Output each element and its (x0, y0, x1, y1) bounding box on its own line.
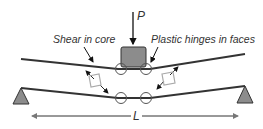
load-block (121, 47, 146, 67)
hinge-pointer-arrow (151, 47, 158, 62)
right-support-icon (237, 86, 253, 103)
plastic-hinges-label: Plastic hinges in faces (151, 33, 255, 45)
left-shear-element (86, 71, 108, 93)
span-label: L (131, 109, 142, 123)
shear-pointer-arrow (84, 47, 93, 62)
right-shear-element (157, 67, 178, 89)
shear-in-core-label: Shear in core (53, 33, 115, 45)
diagram-canvas: P Shear in core Plastic hinges in faces … (0, 0, 263, 129)
load-label: P (137, 9, 145, 23)
left-support-icon (13, 88, 29, 104)
bottom-face-line (21, 86, 245, 98)
